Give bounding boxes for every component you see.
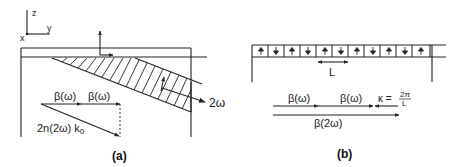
period-label: L	[329, 66, 335, 78]
figure: z y x	[0, 0, 464, 167]
field-arrows-icon	[100, 31, 113, 55]
domain-up-arrow-icon	[290, 48, 295, 56]
panel-a: z y x	[20, 8, 225, 163]
caption-a: (a)	[112, 149, 127, 163]
panel-b: L β(ω) β(ω) κ = 2π L β(2ω) (b)	[252, 45, 446, 161]
axis-label-z: z	[32, 8, 37, 18]
wavevector-diagram-b: β(ω) β(ω) κ = 2π L β(2ω)	[273, 90, 411, 129]
axis-label-y: y	[47, 23, 52, 33]
label-resultant: 2n(2ω) k0	[37, 122, 85, 136]
domain-up-arrow-icon	[355, 48, 360, 56]
label-beta-omega-1: β(ω)	[54, 90, 76, 102]
label-beta-omega-b2: β(ω)	[340, 92, 362, 104]
axes-icon: z y x	[20, 8, 52, 43]
domain-down-arrow-icon	[306, 47, 311, 55]
periodic-poled-strip	[252, 45, 446, 82]
domain-up-arrow-icon	[323, 48, 328, 56]
domain-up-arrow-icon	[387, 48, 392, 56]
axis-label-x: x	[20, 33, 25, 43]
label-kappa-numerator: 2π	[400, 90, 410, 99]
output-beam-arrow-icon	[162, 88, 205, 102]
label-beta-omega-2: β(ω)	[88, 90, 110, 102]
domain-down-arrow-icon	[403, 47, 408, 55]
domain-down-arrow-icon	[274, 47, 279, 55]
caption-b: (b)	[337, 147, 352, 161]
label-kappa-denominator: L	[402, 99, 407, 108]
label-kappa: κ =	[378, 93, 392, 104]
domain-down-arrow-icon	[371, 47, 376, 55]
wavevector-diagram-a: β(ω) β(ω) 2n(2ω) k0	[37, 90, 120, 137]
domain-up-arrow-icon	[419, 48, 424, 56]
label-beta-omega-b1: β(ω)	[288, 92, 310, 104]
domain-up-arrow-icon	[259, 48, 264, 56]
domain-down-arrow-icon	[339, 47, 344, 55]
output-label-2w: 2ω	[209, 96, 225, 110]
label-beta-2omega: β(2ω)	[314, 117, 342, 129]
